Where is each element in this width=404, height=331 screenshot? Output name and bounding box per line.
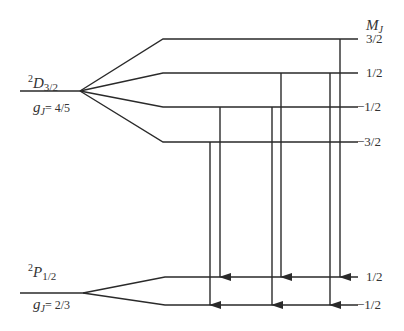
lower-state-label: 2P1/2 [28,263,56,282]
mj-label-lower-1: −1/2 [357,298,381,311]
transition-arrows [210,39,340,305]
upper-level-group [20,39,358,142]
upper-sublevel-2 [80,91,358,107]
upper-state-label: 2D3/2 [28,74,58,93]
mj-label-upper-3: −3/2 [357,135,381,148]
upper-sublevel-1 [80,73,358,91]
lower-sublevel-1 [83,293,358,305]
lower-g-factor: gJ= 2/3 [33,297,70,314]
mj-label-lower-0: 1/2 [366,270,383,283]
mj-label-upper-2: −1/2 [357,100,381,113]
upper-g-factor: gJ= 4/5 [33,100,70,117]
lower-level-group [20,277,358,305]
zeeman-diagram [0,0,404,331]
upper-sublevel-0 [80,39,358,91]
mj-label-upper-0: 3/2 [366,32,383,45]
mj-label-upper-1: 1/2 [366,66,383,79]
lower-sublevel-0 [83,277,358,293]
